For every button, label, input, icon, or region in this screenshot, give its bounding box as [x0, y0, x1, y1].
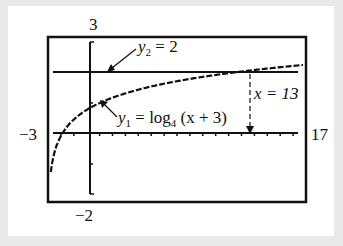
- y1-label: y1 = log4 (x + 3): [116, 108, 227, 129]
- ymax-label: 3: [89, 15, 98, 34]
- calculator-graph: 3 −2 −3 17 y2 = 2 y1 = log4 (x + 3) x = …: [0, 0, 343, 246]
- xmin-label: −3: [19, 125, 37, 144]
- ymin-label: −2: [75, 206, 93, 225]
- xmax-label: 17: [311, 125, 329, 144]
- y2-label: y2 = 2: [136, 37, 178, 58]
- y2-arrow: [112, 49, 136, 68]
- x13-label: x = 13: [253, 84, 299, 103]
- y1-arrow: [104, 104, 117, 117]
